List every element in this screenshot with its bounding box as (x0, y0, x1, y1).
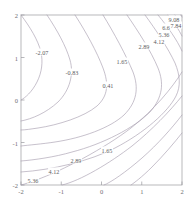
y-tick-label--2: -2 (6, 182, 18, 189)
x-tick-label--2: -2 (18, 188, 23, 195)
contour-line--0.83 (21, 15, 72, 121)
x-tick-label-2: 2 (180, 188, 183, 195)
contour-label-7.84: 7.84 (170, 22, 182, 29)
contour-plot-figure: -2 -1 0 1 2 2 1 0 -1 -2 -2.07 -0.83 0.41… (0, 0, 196, 206)
y-tick-label-1: 1 (8, 54, 18, 61)
x-tick-label--1: -1 (59, 188, 64, 195)
contour-label-5.36-upper: 5.36 (158, 31, 170, 38)
contour-label-4.12-upper: 4.12 (153, 38, 165, 45)
contour-line-0.41 (21, 15, 107, 130)
contour-label-5.36-lower: 5.36 (27, 177, 39, 184)
x-axis-ticks (21, 182, 182, 186)
contour-label-1.65-lower: 1.65 (101, 147, 113, 154)
contour-label-2.89-upper: 2.89 (138, 43, 150, 50)
contour-label-0.41: 0.41 (102, 82, 114, 89)
contour-label-1.65-upper: 1.65 (116, 58, 128, 65)
y-tick-label-0: 0 (8, 97, 18, 104)
x-tick-label-1: 1 (140, 188, 143, 195)
contour-label-4.12-lower: 4.12 (48, 168, 60, 175)
contour-label-6.6: 6.6 (162, 24, 171, 31)
y-tick-label-2: 2 (8, 12, 18, 19)
contour-label-2.89-lower: 2.89 (70, 157, 82, 164)
contour-label-9.08: 9.08 (168, 16, 180, 23)
contour-label--0.83: -0.83 (65, 69, 79, 76)
x-tick-label-0: 0 (100, 188, 103, 195)
contour-line-7.84 (104, 15, 182, 185)
contour-label--2.07: -2.07 (35, 49, 49, 56)
y-tick-label--1: -1 (6, 139, 18, 146)
contour-line-1.65 (21, 15, 136, 146)
